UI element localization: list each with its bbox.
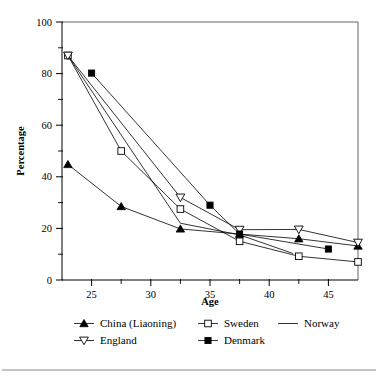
data-point-marker xyxy=(236,238,243,245)
series-norway xyxy=(68,56,293,254)
data-point-marker xyxy=(64,160,72,167)
chart-legend: China (Liaoning)SwedenNorwayEnglandDenma… xyxy=(74,317,340,346)
series-layer xyxy=(64,52,363,265)
data-point-marker xyxy=(296,253,303,260)
y-tick-label: 0 xyxy=(47,275,52,286)
data-point-marker xyxy=(205,320,212,327)
x-axis-title: Age xyxy=(201,296,219,307)
legend-item-denmark[interactable]: Denmark xyxy=(198,334,265,346)
y-axis-title: Percentage xyxy=(15,126,26,176)
legend-label: Norway xyxy=(304,317,340,329)
data-point-marker xyxy=(118,148,125,155)
legend-item-china-liaoning[interactable]: China (Liaoning) xyxy=(74,317,176,330)
y-tick-label: 20 xyxy=(42,223,53,234)
data-point-marker xyxy=(325,246,331,252)
legend-item-england[interactable]: England xyxy=(74,334,137,346)
chart-figure: 020406080100 2530354045 Age Percentage C… xyxy=(0,0,378,378)
data-point-marker xyxy=(89,70,95,76)
legend-item-norway[interactable]: Norway xyxy=(278,317,340,329)
legend-item-sweden[interactable]: Sweden xyxy=(198,317,259,329)
data-point-marker xyxy=(176,194,185,202)
line-chart: 020406080100 2530354045 Age Percentage C… xyxy=(0,0,378,378)
series-polyline xyxy=(68,56,358,243)
plot-frame xyxy=(62,22,358,280)
legend-label: England xyxy=(100,334,137,346)
legend-label: Sweden xyxy=(224,317,259,329)
x-tick-label: 30 xyxy=(146,289,157,300)
y-axis-tick-labels: 020406080100 xyxy=(36,17,52,286)
legend-label: China (Liaoning) xyxy=(100,317,176,330)
series-polyline xyxy=(68,56,358,262)
x-tick-label: 25 xyxy=(86,289,97,300)
data-point-marker xyxy=(176,225,184,232)
data-point-marker xyxy=(117,202,125,209)
y-tick-label: 60 xyxy=(42,120,53,131)
x-tick-label: 45 xyxy=(323,289,334,300)
series-england xyxy=(64,52,363,247)
y-tick-label: 80 xyxy=(42,68,53,79)
axis-lines xyxy=(62,22,358,280)
data-point-marker xyxy=(177,206,184,213)
data-point-marker xyxy=(80,337,89,345)
series-polyline xyxy=(92,73,329,249)
x-tick-label: 40 xyxy=(264,289,275,300)
legend-label: Denmark xyxy=(224,334,265,346)
data-point-marker xyxy=(205,337,211,343)
data-point-marker xyxy=(355,259,362,266)
y-tick-label: 100 xyxy=(36,17,52,28)
data-point-marker xyxy=(207,202,213,208)
data-point-marker xyxy=(237,231,243,237)
y-tick-label: 40 xyxy=(42,171,53,182)
series-polyline xyxy=(68,56,293,254)
